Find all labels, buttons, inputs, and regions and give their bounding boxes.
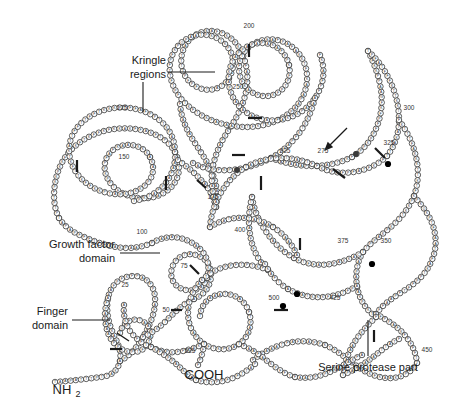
- residue-letter: F: [294, 375, 296, 379]
- residue-letter: F: [386, 74, 388, 78]
- residue-letter: T: [180, 59, 182, 63]
- residue-letter: F: [192, 108, 194, 112]
- residue-letter: T: [336, 161, 338, 165]
- residue-letter: T: [404, 127, 406, 131]
- residue-letter: F: [277, 91, 279, 95]
- residue-letter: T: [190, 296, 192, 300]
- residue-number-300: 300: [404, 104, 415, 111]
- residue-letter: F: [397, 326, 399, 330]
- residue-letter: T: [212, 346, 214, 350]
- residue-letter: F: [377, 122, 379, 126]
- residue-letter: T: [371, 312, 373, 316]
- residue-chain: TAAPATTTPTTAKFAATAPFAKFPTKAKFAFPFKFPAPFP…: [51, 28, 438, 385]
- residue-letter: T: [402, 213, 404, 217]
- residue-letter: T: [170, 269, 172, 273]
- residue-letter: T: [199, 314, 201, 318]
- residue-letter: T: [381, 348, 383, 352]
- residue-number-50: 50: [162, 306, 170, 313]
- highlighted-residues: [234, 151, 391, 309]
- residue-letter: F: [399, 291, 401, 295]
- residue-letter: F: [398, 337, 400, 341]
- residue-letter: F: [202, 348, 204, 352]
- residue-letter: F: [280, 49, 282, 53]
- residue-letter: T: [169, 74, 171, 78]
- residue-letter: T: [304, 88, 306, 92]
- residue-letter: F: [136, 337, 138, 341]
- residue-letter: F: [174, 181, 176, 185]
- residue-number-150: 150: [119, 153, 130, 160]
- residue-letter: T: [181, 54, 183, 58]
- residue-letter: F: [322, 74, 324, 78]
- residue-letter: F: [229, 178, 231, 182]
- residue-letter: T: [172, 264, 174, 268]
- residue-letter: T: [184, 101, 186, 105]
- residue-letter: F: [150, 345, 152, 349]
- growth-factor-label-line1: Growth factor: [49, 238, 115, 250]
- residue-letter: F: [414, 351, 416, 355]
- residue-letter: F: [157, 188, 159, 192]
- residue-letter: T: [240, 263, 242, 267]
- residue-number-325: 325: [384, 139, 395, 146]
- residue-letter: F: [415, 189, 417, 193]
- residue-letter: T: [173, 140, 175, 144]
- residue-letter: Q: [423, 207, 426, 211]
- residue-letter: T: [119, 354, 121, 358]
- residue-letter: T: [69, 139, 71, 143]
- residue-letter: T: [85, 377, 87, 381]
- residue-number-125: 125: [117, 104, 128, 111]
- residue-letter: T: [292, 290, 294, 294]
- residue-letter: T: [129, 329, 131, 333]
- residue-letter: F: [267, 94, 269, 98]
- residue-letter: F: [265, 158, 267, 162]
- residue-letter: Q: [121, 326, 124, 330]
- residue-letter: F: [250, 237, 252, 241]
- residue-letter: F: [106, 301, 108, 305]
- residue-letter: T: [137, 350, 139, 354]
- residue-letter: T: [306, 72, 308, 76]
- residue-letter: T: [386, 154, 388, 158]
- residue-letter: F: [179, 366, 181, 370]
- residue-letter: T: [224, 292, 226, 296]
- residue-letter: T: [265, 230, 267, 234]
- residue-letter: F: [257, 93, 259, 97]
- residue-letter: T: [159, 135, 161, 139]
- residue-letter: F: [201, 353, 203, 357]
- residue-letter: T: [238, 111, 240, 115]
- residue-letter: F: [155, 133, 157, 137]
- residue-letter: F: [77, 125, 79, 129]
- residue-letter: F: [89, 184, 91, 188]
- residue-letter: T: [206, 88, 208, 92]
- residue-letter: F: [245, 64, 247, 68]
- residue-letter: F: [307, 262, 309, 266]
- residue-letter: F: [347, 353, 349, 357]
- residue-letter: T: [431, 221, 433, 225]
- residue-letter: F: [302, 340, 304, 344]
- protein-structure-svg: TAAPATTTPTTAKFAATAPFAKFPTKAKFAFPFKFPAPFP…: [0, 0, 455, 415]
- residue-letter: F: [177, 350, 179, 354]
- residue-letter: T: [185, 288, 187, 292]
- residue-letter: T: [276, 243, 278, 247]
- residue-letter: F: [199, 247, 201, 251]
- residue-letter: F: [156, 239, 158, 243]
- residue-letter: T: [69, 155, 71, 159]
- residue-letter: F: [276, 118, 278, 122]
- residue-letter: F: [185, 165, 187, 169]
- residue-letter: T: [246, 305, 248, 309]
- residue-letter: T: [164, 320, 166, 324]
- residue-number-350: 350: [381, 237, 392, 244]
- residue-letter: T: [246, 75, 248, 79]
- residue-letter: T: [319, 374, 321, 378]
- residue-letter: F: [321, 79, 323, 83]
- residue-letter: F: [221, 31, 223, 35]
- residue-number-450: 450: [422, 346, 433, 353]
- residue-letter: F: [208, 345, 210, 349]
- residue-letter: F: [210, 118, 212, 122]
- residue-number-100: 100: [137, 228, 148, 235]
- residue-number-425: 425: [330, 294, 341, 301]
- leader-lines: [72, 72, 368, 356]
- residue-letter: F: [252, 125, 254, 129]
- residue-letter: F: [187, 79, 189, 83]
- residue-letter: F: [234, 295, 236, 299]
- residue-letter: T: [248, 217, 250, 221]
- residue-letter: F: [112, 148, 114, 152]
